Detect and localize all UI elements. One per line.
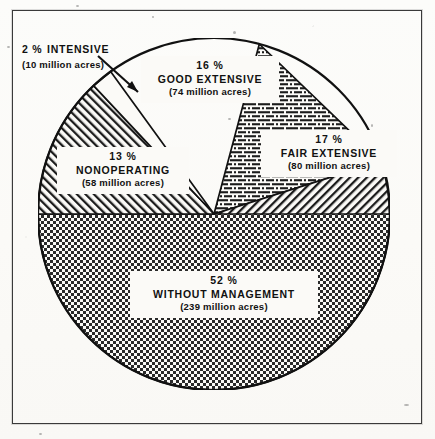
label-nonoperating-percent: 13 % xyxy=(63,150,183,164)
label-without-management-acres: (239 million acres) xyxy=(136,301,312,313)
label-fair-extensive-percent: 17 % xyxy=(267,133,391,147)
label-good-extensive-name: GOOD EXTENSIVE xyxy=(147,73,273,87)
label-without-management-percent: 52 % xyxy=(136,274,312,288)
label-fair-extensive-acres: (80 million acres) xyxy=(267,160,391,172)
label-intensive-percent: 2 % xyxy=(22,43,42,55)
label-good-extensive-acres: (74 million acres) xyxy=(147,86,273,98)
label-intensive: 2 % INTENSIVE (10 million acres) xyxy=(22,38,109,71)
label-good-extensive: 16 % GOOD EXTENSIVE (74 million acres) xyxy=(142,57,278,102)
scan-speck xyxy=(39,433,42,435)
label-nonoperating-acres: (58 million acres) xyxy=(63,177,183,189)
label-without-management-name: WITHOUT MANAGEMENT xyxy=(136,288,312,302)
label-intensive-acres: (10 million acres) xyxy=(22,59,109,71)
label-nonoperating-name: NONOPERATING xyxy=(63,164,183,178)
label-fair-extensive: 17 % FAIR EXTENSIVE (80 million acres) xyxy=(262,131,396,176)
label-intensive-name: INTENSIVE xyxy=(47,43,109,55)
label-fair-extensive-name: FAIR EXTENSIVE xyxy=(267,147,391,161)
scan-speck xyxy=(7,46,10,48)
label-nonoperating: 13 % NONOPERATING (58 million acres) xyxy=(58,148,188,193)
chart-page: 2 % INTENSIVE (10 million acres) 16 % GO… xyxy=(0,0,435,439)
label-good-extensive-percent: 16 % xyxy=(147,59,273,73)
label-without-management: 52 % WITHOUT MANAGEMENT (239 million acr… xyxy=(131,272,317,317)
scan-speck xyxy=(76,5,79,7)
